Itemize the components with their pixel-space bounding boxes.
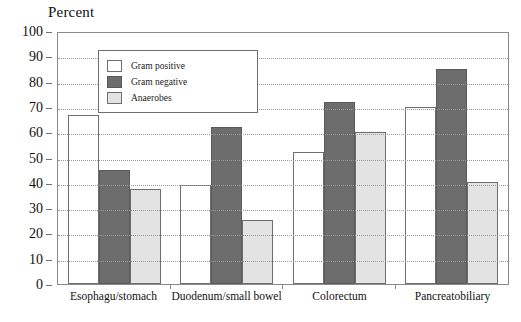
y-tick-mark [46, 108, 52, 109]
y-tick-label: 60 [3, 125, 43, 141]
y-tick-label: 40 [3, 176, 43, 192]
legend-swatch-icon [107, 76, 122, 88]
bar[interactable] [324, 102, 355, 284]
y-tick-mark [46, 159, 52, 160]
y-tick-mark [46, 260, 52, 261]
x-axis-label: Colorectum [283, 290, 396, 302]
y-tick-mark [46, 285, 52, 286]
gridline [58, 235, 508, 236]
x-tick-mark [395, 284, 396, 289]
legend-item[interactable]: Anaerobes [107, 90, 249, 105]
bar[interactable] [242, 220, 273, 285]
x-axis-label: Pancreatobiliary [396, 290, 509, 302]
bar[interactable] [68, 115, 99, 285]
bar[interactable] [467, 182, 498, 284]
y-tick-mark [46, 234, 52, 235]
bar-group [396, 33, 509, 284]
y-tick-label: 0 [3, 277, 43, 293]
y-tick-label: 20 [3, 226, 43, 242]
bar[interactable] [436, 69, 467, 284]
bar[interactable] [99, 170, 130, 284]
legend-item[interactable]: Gram positive [107, 58, 249, 73]
y-tick-label: 80 [3, 75, 43, 91]
y-tick-label: 10 [3, 252, 43, 268]
gridline [58, 185, 508, 186]
x-axis-labels: Esophagu/stomachDuodenum/small bowelColo… [57, 290, 509, 302]
x-tick-mark [170, 284, 171, 289]
gridline [58, 134, 508, 135]
x-tick-mark [282, 284, 283, 289]
legend-swatch-icon [107, 60, 122, 72]
y-tick-mark [46, 209, 52, 210]
y-tick-label: 50 [3, 151, 43, 167]
y-tick-mark [46, 32, 52, 33]
y-tick-mark [46, 133, 52, 134]
y-tick-label: 90 [3, 49, 43, 65]
bar-group [283, 33, 396, 284]
y-tick-mark [46, 184, 52, 185]
legend-label: Gram negative [131, 77, 187, 87]
legend-label: Anaerobes [131, 93, 172, 103]
x-axis-label: Esophagu/stomach [57, 290, 170, 302]
legend-label: Gram positive [131, 61, 185, 71]
y-tick-mark [46, 57, 52, 58]
legend-swatch-icon [107, 92, 122, 104]
y-tick-label: 70 [3, 100, 43, 116]
legend-item[interactable]: Gram negative [107, 74, 249, 89]
bar[interactable] [293, 152, 324, 284]
gridline [58, 261, 508, 262]
bar[interactable] [130, 189, 161, 284]
y-axis: 1009080706050403020100 [0, 0, 57, 322]
legend: Gram positiveGram negativeAnaerobes [98, 50, 258, 113]
chart-figure: Percent 1009080706050403020100 Esophagu/… [0, 0, 521, 322]
x-axis-label: Duodenum/small bowel [170, 290, 283, 302]
y-tick-label: 30 [3, 201, 43, 217]
gridline [58, 210, 508, 211]
y-tick-label: 100 [3, 24, 43, 40]
y-tick-mark [46, 83, 52, 84]
gridline [58, 160, 508, 161]
